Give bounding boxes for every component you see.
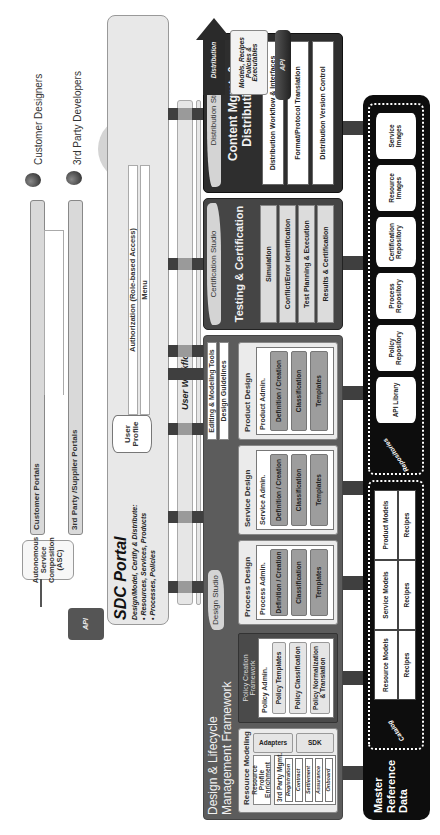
settlement-item[interactable]: Settlement: [305, 758, 313, 802]
resource-images-repo[interactable]: Resource Images: [376, 165, 416, 211]
certification-repository[interactable]: Certification Repository: [376, 217, 416, 267]
sdk-box[interactable]: SDK: [296, 733, 334, 753]
api-library-repo[interactable]: API Library: [376, 377, 416, 423]
onboard-label: Onboard: [326, 769, 332, 792]
customer-designer-icon: [25, 173, 41, 187]
process-templates-item[interactable]: Templates: [310, 549, 328, 616]
policy-repository[interactable]: Policy Repository: [376, 325, 416, 371]
asc-label: Autonomous Service Composition (ASC): [32, 537, 64, 583]
models-scroll: Models, Recipes Policies & Executables: [230, 30, 268, 95]
customer-portals[interactable]: Customer Portals: [30, 200, 45, 535]
policy-templates-label: Policy Templates: [276, 652, 283, 705]
process-admin-title: Process Admin.: [259, 562, 266, 615]
service-models-cell[interactable]: Service Models: [374, 560, 398, 630]
process-classification-item[interactable]: Classification: [291, 549, 307, 616]
test-planning-item[interactable]: Test Planning & Execution: [298, 205, 315, 323]
sdc-portal-bullet-2: • Processes, Policies: [149, 550, 157, 620]
asc-box[interactable]: Autonomous Service Composition (ASC): [22, 540, 74, 580]
service-templates-item[interactable]: Templates: [310, 454, 328, 526]
assurance-label: Assurance: [316, 766, 322, 794]
sdc-portal-title: SDC Portal: [112, 536, 130, 620]
distribution-arrow-label: Distribution: [211, 42, 218, 78]
service-definition-item[interactable]: Definition / Creation: [270, 454, 288, 526]
policy-classification-item[interactable]: Policy Classification: [289, 642, 307, 714]
third-party-portals[interactable]: 3rd Party /Supplier Portals: [68, 200, 83, 535]
connector-highlight: [178, 258, 192, 270]
results-certification-item[interactable]: Results & Certification: [317, 205, 334, 323]
simulation-item[interactable]: Simulation: [260, 205, 277, 323]
connector-highlight: [178, 345, 192, 357]
process-repository[interactable]: Process Repository: [376, 273, 416, 319]
authorization-label: Authorization (Role-based Access): [129, 228, 137, 352]
resource-modeling-title: Resource Modeling: [242, 731, 251, 805]
policy-templates-item[interactable]: Policy Templates: [272, 642, 286, 714]
connector: [343, 481, 365, 495]
sdk-label: SDK: [308, 740, 322, 747]
customer-designers-label: Customer Designers: [33, 74, 44, 165]
resource-recipes-cell[interactable]: Recipes: [398, 630, 416, 700]
product-recipes-cell[interactable]: Recipes: [398, 490, 416, 560]
user-profile-label: User Profile: [124, 416, 141, 452]
resource-models-cell[interactable]: Resource Models: [374, 630, 398, 700]
authorization-bar[interactable]: Authorization (Role-based Access): [128, 165, 138, 415]
connector: [343, 766, 365, 780]
process-design-title: Process Design: [243, 557, 252, 617]
assurance-item[interactable]: Assurance: [315, 758, 323, 802]
connector: [343, 256, 365, 270]
resource-profile-enrichment[interactable]: Resource Profile Enrichment: [253, 755, 271, 805]
contract-label: Contract: [296, 769, 302, 792]
asc-api-cylinder: API: [68, 608, 104, 640]
policy-creation-title: Policy Creation Framework: [240, 636, 258, 720]
models-scroll-label: Models, Recipes Policies & Executables: [239, 31, 259, 94]
settlement-label: Settlement: [306, 766, 312, 794]
contract-item[interactable]: Contract: [295, 758, 303, 802]
service-images-repo[interactable]: Service Images: [376, 113, 416, 159]
service-classification-item[interactable]: Classification: [291, 454, 307, 526]
policy-normalization-item[interactable]: Policy Normalization & Translation: [310, 642, 330, 714]
customer-portals-extension: [44, 230, 64, 395]
adapters-box[interactable]: Adapters: [253, 733, 293, 753]
policy-admin-title: Policy Admin.: [261, 667, 268, 713]
design-studio-label: Design Studio: [212, 575, 220, 625]
resource-profile-enrichment-label: Resource Profile Enrichment: [252, 756, 272, 804]
connector: [343, 386, 365, 400]
menu-bar[interactable]: Menu: [140, 165, 150, 415]
design-studio-tag: Design Studio: [208, 570, 224, 630]
menu-label: Menu: [141, 280, 149, 300]
design-lifecycle-title-1: Design & Lifecycle: [206, 716, 221, 815]
process-definition-item[interactable]: Definition / Creation: [270, 549, 288, 616]
asc-api-label: API: [82, 618, 89, 630]
connector: [168, 368, 204, 380]
user-profile-cylinder[interactable]: User Profile: [112, 415, 152, 453]
product-definition-item[interactable]: Definition / Creation: [270, 351, 288, 431]
sdc-architecture-diagram: Customer Designers 3rd Party Developers …: [0, 0, 440, 835]
product-templates-item[interactable]: Templates: [310, 351, 328, 431]
distribution-api-label: API: [279, 59, 286, 71]
editing-modeling-tools[interactable]: Editing & Modeling Tools: [207, 342, 217, 440]
testing-certification-title: Testing & Certification: [225, 203, 255, 325]
product-admin-title: Product Admin.: [259, 378, 266, 430]
design-guidelines-label: Design Guidelines: [220, 360, 227, 421]
policy-classification-label: Policy Classification: [295, 646, 302, 709]
product-models-cell[interactable]: Product Models: [374, 490, 398, 560]
version-control-item[interactable]: Distribution Version Control: [312, 41, 334, 185]
design-guidelines[interactable]: Design Guidelines: [219, 342, 229, 440]
conflict-identification-item[interactable]: Conflict/Error Identification: [279, 205, 296, 323]
product-design-title: Product Design: [243, 373, 252, 432]
certification-studio-tag: Certification Studio: [207, 203, 221, 325]
distribution-arrow-head: [196, 18, 232, 40]
service-recipes-cell[interactable]: Recipes: [398, 560, 416, 630]
third-party-developer-icon: [66, 171, 82, 185]
connector: [343, 671, 365, 685]
connector-highlight: [178, 511, 192, 523]
product-classification-item[interactable]: Classification: [291, 351, 307, 431]
editing-modeling-tools-label: Editing & Modeling Tools: [208, 349, 215, 432]
master-reference-title: Master Reference Data: [372, 758, 410, 813]
connector-highlight: [178, 423, 192, 435]
service-design-title: Service Design: [243, 470, 252, 527]
policy-normalization-label: Policy Normalization & Translation: [313, 643, 327, 713]
registration-item[interactable]: Registration: [285, 758, 293, 802]
onboard-item[interactable]: Onboard: [325, 758, 333, 802]
distribution-api-cylinder: API: [275, 30, 291, 100]
connector-highlight: [178, 108, 192, 120]
